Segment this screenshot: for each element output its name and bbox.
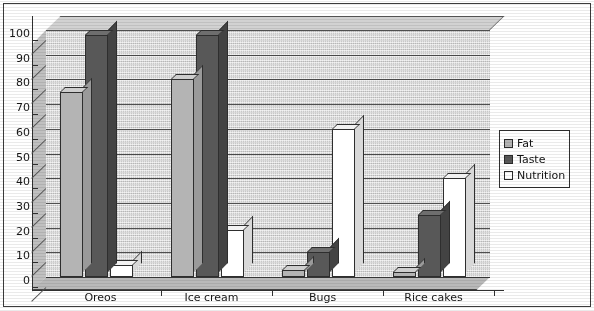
bar-side-face (83, 77, 92, 272)
x-tick-label: Bugs (263, 292, 383, 304)
y-tick-mark (32, 164, 38, 165)
bar-side-face (108, 21, 117, 272)
y-tick-label: 60 (0, 127, 30, 138)
bar-side-face (466, 164, 475, 272)
bar-front-face (171, 79, 194, 277)
y-tick-label: 40 (0, 176, 30, 187)
x-tick-mark (161, 290, 162, 296)
y-tick-mark (32, 287, 38, 288)
legend-item-nutrition: Nutrition (504, 167, 565, 183)
bar-side-face (219, 21, 228, 272)
y-tick-mark (32, 65, 38, 66)
x-tick-mark (383, 290, 384, 296)
y-tick-mark (32, 89, 38, 90)
y-tick-mark (32, 114, 38, 115)
legend-label-nutrition: Nutrition (517, 170, 565, 181)
y-tick-mark (32, 139, 38, 140)
legend-item-fat: Fat (504, 135, 565, 151)
legend-swatch-fat (504, 139, 513, 148)
legend-item-taste: Taste (504, 151, 565, 167)
legend-label-taste: Taste (517, 154, 545, 165)
bar-front-face (393, 272, 416, 277)
y-tick-label: 100 (0, 28, 30, 39)
y-tick-label: 70 (0, 102, 30, 113)
bar-front-face (60, 92, 83, 277)
y-tick-label: 0 (0, 275, 30, 286)
bar-fat-ice-cream (171, 79, 194, 277)
bar-fat-rice-cakes (393, 272, 416, 277)
bar-fat-bugs (282, 270, 305, 277)
legend-label-fat: Fat (517, 138, 533, 149)
y-tick-mark (32, 188, 38, 189)
bar-taste-rice-cakes (418, 215, 441, 277)
y-tick-label: 10 (0, 250, 30, 261)
x-tick-label: Rice cakes (374, 292, 494, 304)
x-tick-label: Oreos (41, 292, 161, 304)
y-tick-label: 30 (0, 201, 30, 212)
y-tick-mark (32, 213, 38, 214)
y-tick-mark (32, 262, 38, 263)
y-tick-mark (32, 238, 38, 239)
bar-side-face (194, 65, 203, 272)
y-tick-label: 20 (0, 226, 30, 237)
bar-fat-oreos (60, 92, 83, 277)
bar-nutrition-oreos (110, 265, 133, 277)
y-tick-mark (32, 40, 38, 41)
chart-legend: Fat Taste Nutrition (499, 130, 570, 188)
bar-front-face (110, 265, 133, 277)
bar-chart-figure: 0102030405060708090100 OreosIce creamBug… (0, 0, 594, 311)
y-tick-label: 90 (0, 53, 30, 64)
x-tick-label: Ice cream (152, 292, 272, 304)
x-tick-mark (272, 290, 273, 296)
y-tick-label: 50 (0, 152, 30, 163)
y-tick-label: 80 (0, 77, 30, 88)
bar-side-face (355, 114, 364, 272)
x-tick-mark (494, 290, 495, 296)
legend-swatch-nutrition (504, 171, 513, 180)
bar-front-face (282, 270, 305, 277)
legend-swatch-taste (504, 155, 513, 164)
bar-front-face (418, 215, 441, 277)
